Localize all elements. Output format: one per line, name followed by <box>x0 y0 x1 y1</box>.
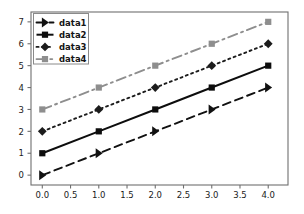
legend-label-data1: data1 <box>59 18 87 28</box>
x-axis-tick-labels: 0.00.51.01.52.02.53.03.54.0 <box>36 190 275 200</box>
data-point-marker-data2-4 <box>265 63 271 69</box>
data-point-marker-data4-4 <box>265 19 271 25</box>
y-tick-label: 7 <box>19 17 24 27</box>
data-point-marker-data4-1 <box>96 84 102 90</box>
x-tick-label: 2.5 <box>177 190 191 200</box>
data-point-marker-data4-2 <box>152 63 158 69</box>
data-point-marker-data2-2 <box>152 106 158 112</box>
x-tick-label: 0.5 <box>64 190 78 200</box>
x-tick-label: 1.0 <box>92 190 106 200</box>
data-point-marker-data2-0 <box>39 150 45 156</box>
x-tick-label: 3.5 <box>233 190 247 200</box>
y-tick-label: 2 <box>19 127 24 137</box>
data-point-marker-data2-1 <box>96 128 102 134</box>
legend-label-data3: data3 <box>59 42 87 52</box>
y-tick-label: 5 <box>19 61 24 71</box>
x-tick-label: 3.0 <box>205 190 219 200</box>
y-tick-label: 3 <box>19 105 24 115</box>
x-tick-label: 4.0 <box>261 190 275 200</box>
data-point-marker-legend-data4 <box>42 56 48 62</box>
chart-figure: 0.00.51.01.52.02.53.03.54.0 01234567 dat… <box>0 0 304 214</box>
legend-label-data2: data2 <box>59 30 87 40</box>
chart-legend: data1data2data3data4 <box>34 14 89 65</box>
line-chart: 0.00.51.01.52.02.53.03.54.0 01234567 dat… <box>0 0 304 214</box>
x-tick-label: 2.0 <box>148 190 162 200</box>
data-point-marker-legend-data2 <box>42 32 48 38</box>
y-tick-label: 1 <box>19 148 24 158</box>
y-tick-label: 6 <box>19 39 24 49</box>
x-tick-label: 1.5 <box>120 190 134 200</box>
x-tick-label: 0.0 <box>36 190 50 200</box>
y-axis-tick-labels: 01234567 <box>19 17 24 180</box>
legend-label-data4: data4 <box>59 54 87 64</box>
y-tick-label: 4 <box>19 83 24 93</box>
data-point-marker-data4-3 <box>209 41 215 47</box>
y-tick-label: 0 <box>19 170 24 180</box>
data-point-marker-data2-3 <box>209 84 215 90</box>
data-point-marker-data4-0 <box>39 106 45 112</box>
